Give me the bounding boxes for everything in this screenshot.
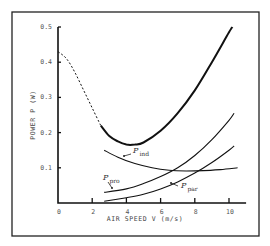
svg-text:Ppro: Ppro — [102, 173, 120, 185]
y-tick-label: 0.2 — [40, 129, 52, 137]
p-pro-label: Ppro — [102, 173, 120, 189]
power-vs-airspeed-chart: 0.10.20.30.40.50246810 PindPproPpar AIR … — [0, 0, 270, 246]
x-tick-label: 10 — [226, 208, 234, 216]
x-tick-label: 8 — [194, 208, 198, 216]
y-tick-label: 0.1 — [40, 164, 52, 172]
svg-text:Ppar: Ppar — [180, 181, 198, 193]
total-power-curve-dashed — [58, 52, 101, 126]
curve-labels: PindPproPpar — [102, 146, 198, 193]
x-tick-label: 2 — [91, 208, 95, 216]
p-pro-curve — [104, 113, 234, 192]
y-axis-title: POWER P (W) — [29, 90, 37, 140]
y-tick-label: 0.4 — [40, 58, 52, 66]
curves — [58, 27, 238, 201]
x-tick-label: 0 — [57, 208, 61, 216]
p-par-label: Ppar — [170, 181, 198, 193]
p-ind-label: Pind — [123, 146, 149, 157]
total-power-curve — [101, 27, 233, 145]
svg-text:Pind: Pind — [132, 146, 149, 157]
p-ind-curve — [104, 150, 237, 171]
x-axis-title: AIR SPEED V (m/s) — [107, 215, 184, 223]
ticks: 0.10.20.30.40.50246810 — [40, 23, 234, 216]
p-par-curve — [104, 146, 234, 201]
y-tick-label: 0.3 — [40, 93, 52, 101]
y-tick-label: 0.5 — [40, 23, 52, 31]
